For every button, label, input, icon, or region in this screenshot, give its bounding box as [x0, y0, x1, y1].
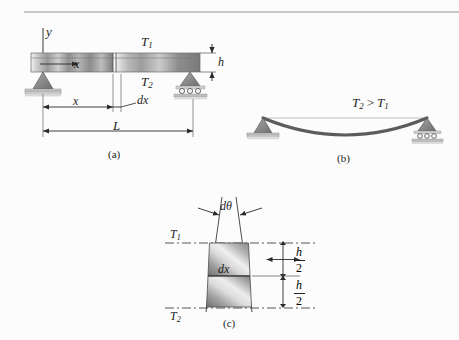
- roller-support-right-panel-a: [174, 72, 207, 99]
- temp-T2-subscript: 2: [148, 80, 152, 90]
- temp-c-T1-subscript: 1: [177, 233, 181, 242]
- beam-body-panel-a: [31, 53, 200, 72]
- h-dimension-label: h: [218, 56, 224, 68]
- caption-panel-c: (c): [223, 317, 235, 329]
- temp-label-T2-panel-c: T2: [170, 310, 181, 324]
- half-depth-lower: h 2: [291, 279, 307, 307]
- temp-c-T1-base: T: [170, 227, 177, 241]
- x-dimension-label: x: [73, 95, 78, 107]
- temp-c-T2-base: T: [170, 309, 177, 323]
- panel-b-graphics: [247, 118, 443, 144]
- beam-x-label: x: [74, 58, 79, 70]
- figure-thermal-beam-bending: y x T1 T2 h x dx L (a) T2>T1 (b) dθ T1 d…: [0, 0, 459, 340]
- temp-label-T1-panel-a: T1: [141, 35, 153, 50]
- d-theta-label: dθ: [220, 200, 232, 212]
- y-axis-label: y: [46, 25, 52, 38]
- temp-c-T2-subscript: 2: [177, 315, 181, 324]
- dx-dimension-panel-a: [113, 103, 136, 107]
- temp-label-T1-panel-c: T1: [170, 228, 181, 242]
- half-depth-upper: h 2: [291, 246, 307, 274]
- pin-support-left-panel-a: [25, 72, 61, 96]
- caption-panel-a: (a): [108, 148, 120, 160]
- element-dx-label: dx: [218, 263, 229, 275]
- panel-a-graphics: [0, 0, 459, 340]
- inequality-operator: >: [364, 95, 377, 110]
- inequality-lhs-subscript: 2: [359, 101, 363, 111]
- dx-dimension-label: dx: [137, 94, 148, 106]
- half-depth-lower-denominator: 2: [291, 295, 307, 308]
- element-lower-half: [207, 276, 252, 307]
- deflected-beam-curve: [263, 118, 427, 135]
- caption-panel-b: (b): [337, 152, 350, 164]
- h-dimension-panel-a: [200, 44, 216, 81]
- temp-T1-subscript: 1: [148, 40, 152, 50]
- temperature-inequality-panel-b: T2>T1: [352, 96, 389, 111]
- temp-label-T2-panel-a: T2: [141, 75, 153, 90]
- half-depth-upper-denominator: 2: [291, 262, 307, 275]
- half-depth-lower-numerator: h: [291, 279, 307, 292]
- half-depth-upper-numerator: h: [291, 246, 307, 259]
- L-dimension-label: L: [113, 119, 120, 132]
- inequality-rhs-subscript: 1: [384, 101, 388, 111]
